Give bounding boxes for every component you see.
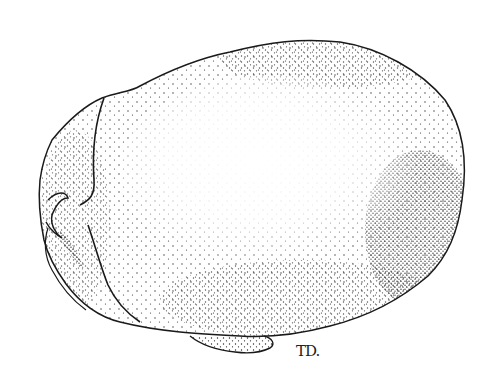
bottom-appendage [190, 336, 273, 353]
cranium-body [0, 0, 493, 388]
artist-signature: TD. [296, 342, 319, 360]
stipple-illustration [0, 0, 493, 388]
